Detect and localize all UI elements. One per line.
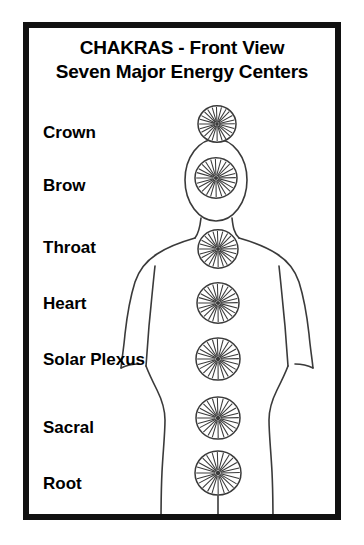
chakra-label-brow: Brow: [43, 176, 86, 196]
chakra-labels-layer: CrownBrowThroatHeartSolar PlexusSacralRo…: [29, 28, 335, 514]
chakra-label-solar-plexus: Solar Plexus: [43, 350, 145, 370]
chakra-label-sacral: Sacral: [43, 418, 94, 438]
chakra-label-crown: Crown: [43, 123, 96, 143]
poster-canvas: CHAKRAS - Front View Seven Major Energy …: [29, 28, 335, 514]
chakra-label-root: Root: [43, 474, 82, 494]
poster-frame: CHAKRAS - Front View Seven Major Energy …: [23, 22, 341, 520]
chakra-label-throat: Throat: [43, 238, 96, 258]
chakra-label-heart: Heart: [43, 294, 86, 314]
